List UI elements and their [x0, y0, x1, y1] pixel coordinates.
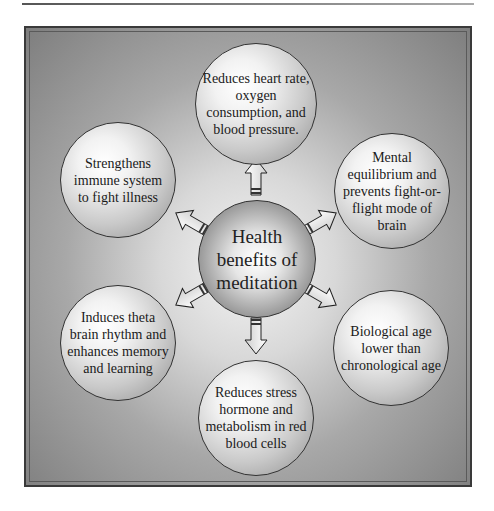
center-node-label: Health benefits of meditation [199, 225, 315, 294]
node-top: Reduces heart rate, oxygen consumption, … [195, 43, 317, 165]
node-bottom: Reduces stress hormone and metabolism in… [198, 360, 314, 476]
node-upper-left: Strengthens immune system to fight illne… [60, 122, 176, 238]
node-lower-left-label: Induces theta brain rhythm and enhances … [61, 309, 175, 377]
node-top-label: Reduces heart rate, oxygen consumption, … [196, 70, 316, 138]
node-lower-right-label: Biological age lower than chronological … [334, 323, 448, 374]
node-upper-right-label: Mental equilibrium and prevents fight-or… [335, 149, 449, 234]
node-lower-right: Biological age lower than chronological … [333, 290, 449, 406]
node-lower-left: Induces theta brain rhythm and enhances … [60, 285, 176, 401]
center-node: Health benefits of meditation [198, 200, 316, 318]
node-bottom-label: Reduces stress hormone and metabolism in… [199, 384, 313, 452]
node-upper-left-label: Strengthens immune system to fight illne… [61, 155, 175, 206]
node-upper-right: Mental equilibrium and prevents fight-or… [334, 133, 450, 249]
arrow-down-icon [245, 318, 267, 354]
